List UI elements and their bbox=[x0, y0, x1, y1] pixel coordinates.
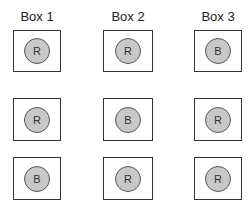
box-row3-col3: R bbox=[194, 157, 242, 200]
ball-icon: B bbox=[205, 38, 231, 64]
box-row3-col2: R bbox=[103, 157, 153, 200]
ball-icon: R bbox=[24, 38, 50, 64]
ball-icon: R bbox=[24, 107, 50, 133]
box-row2-col3: R bbox=[194, 98, 242, 141]
ball-icon: R bbox=[115, 166, 141, 192]
box-row3-col1: B bbox=[13, 157, 61, 200]
ball-icon: B bbox=[24, 166, 50, 192]
ball-icon: R bbox=[205, 166, 231, 192]
box-row1-col1: R bbox=[13, 30, 61, 72]
ball-icon: R bbox=[115, 38, 141, 64]
column-label-box-3: Box 3 bbox=[188, 9, 248, 24]
box-row1-col2: R bbox=[103, 30, 153, 72]
box-row2-col1: R bbox=[13, 98, 61, 141]
ball-icon: B bbox=[115, 107, 141, 133]
box-row1-col3: B bbox=[194, 30, 242, 72]
column-label-box-2: Box 2 bbox=[98, 9, 158, 24]
column-label-box-1: Box 1 bbox=[7, 9, 67, 24]
ball-icon: R bbox=[205, 107, 231, 133]
box-row2-col2: B bbox=[103, 98, 153, 141]
